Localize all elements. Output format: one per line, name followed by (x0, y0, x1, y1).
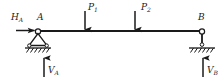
ground-hatching-A (27, 48, 50, 53)
support-B (189, 29, 215, 53)
support-A-triangle (29, 34, 47, 46)
label-joint-B: B (198, 13, 205, 22)
label-horizontal-reaction-A: HA (11, 13, 23, 22)
label-joint-A: A (37, 13, 44, 22)
label-load-P1: P1 (88, 3, 98, 12)
pin-node-B (199, 29, 204, 34)
beam-free-body-diagram: HA A P1 P2 B VA VB (0, 0, 223, 83)
ground-hatching-B (191, 48, 214, 53)
label-vertical-reaction-A: VA (48, 66, 59, 75)
support-B-base-pin (200, 43, 204, 47)
label-load-P2: P2 (141, 3, 151, 12)
support-A (25, 29, 51, 53)
support-A-roller-left (28, 44, 31, 47)
label-vertical-reaction-B: VB (207, 66, 218, 75)
support-A-roller-right (45, 44, 48, 47)
diagram-canvas (0, 0, 223, 83)
